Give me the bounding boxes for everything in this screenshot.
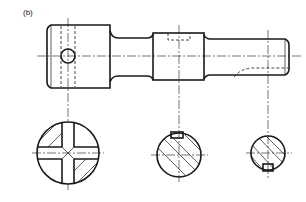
technical-drawing <box>0 0 306 202</box>
section-shaft-keyway-bottom <box>246 136 292 172</box>
section-head-cross-holes <box>30 115 105 195</box>
